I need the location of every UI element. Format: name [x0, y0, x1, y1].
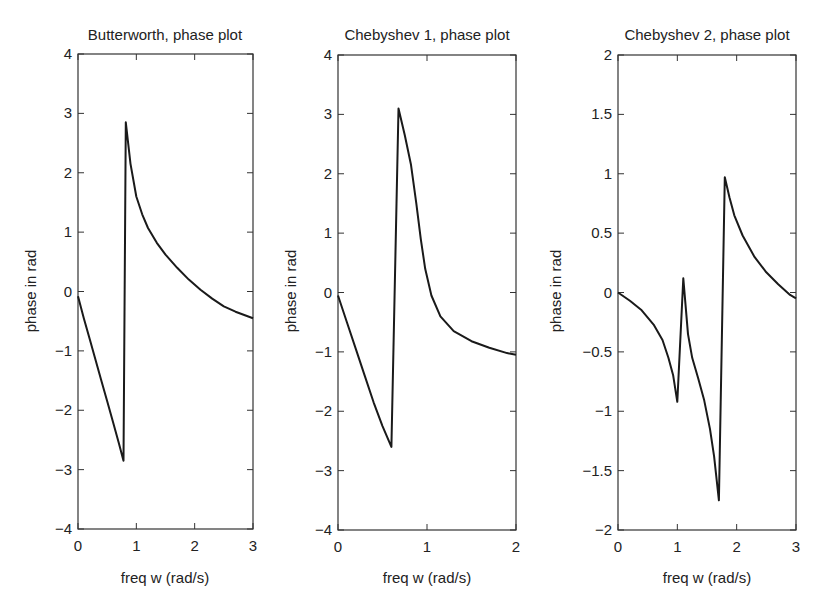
y-tick-label: 1	[604, 165, 612, 182]
y-tick-label: −4	[315, 521, 332, 538]
phase-curve	[618, 177, 796, 500]
axes-frame	[78, 54, 253, 529]
y-tick-label: 2	[64, 164, 72, 181]
y-tick-label: −3	[55, 461, 72, 478]
y-tick-label: 1.5	[591, 105, 612, 122]
y-tick-label: 0	[324, 284, 332, 301]
x-axis-label: freq w (rad/s)	[383, 569, 471, 586]
y-tick-label: −2	[595, 521, 612, 538]
panel-title: Chebyshev 2, phase plot	[624, 26, 790, 43]
y-tick-label: −0.5	[582, 343, 612, 360]
x-tick-label: 0	[614, 538, 622, 555]
y-tick-label: −2	[315, 402, 332, 419]
y-tick-label: 4	[64, 45, 72, 62]
x-tick-label: 3	[249, 537, 257, 554]
y-axis-label: phase in rad	[282, 250, 299, 333]
x-tick-label: 2	[732, 538, 740, 555]
y-tick-label: −3	[315, 462, 332, 479]
axes-frame	[618, 55, 796, 530]
phase-curve	[338, 108, 516, 447]
x-tick-label: 0	[334, 538, 342, 555]
x-tick-label: 2	[190, 537, 198, 554]
y-tick-label: −1	[595, 402, 612, 419]
panel-chebyshev-1: Chebyshev 1, phase plot freq w (rad/s) p…	[282, 26, 520, 586]
y-tick-label: 1	[64, 223, 72, 240]
y-tick-label: 3	[64, 104, 72, 121]
x-tick-label: 0	[74, 537, 82, 554]
y-tick-label: 1	[324, 224, 332, 241]
figure: Butterworth, phase plot freq w (rad/s) p…	[0, 0, 829, 610]
panel-chebyshev-2: Chebyshev 2, phase plot freq w (rad/s) p…	[547, 26, 800, 586]
panel-title: Butterworth, phase plot	[88, 26, 243, 43]
y-tick-label: 2	[324, 165, 332, 182]
plot-area: −4−3−2−101234012	[315, 46, 520, 555]
x-axis-label: freq w (rad/s)	[663, 569, 751, 586]
y-tick-label: 0	[64, 283, 72, 300]
x-tick-label: 1	[673, 538, 681, 555]
x-axis-label: freq w (rad/s)	[121, 569, 209, 586]
y-tick-label: −1	[55, 342, 72, 359]
panel-title: Chebyshev 1, phase plot	[344, 26, 510, 43]
y-tick-label: 0.5	[591, 224, 612, 241]
phase-curve	[78, 122, 253, 460]
x-tick-label: 2	[512, 538, 520, 555]
y-axis-label: phase in rad	[547, 250, 564, 333]
y-tick-label: −4	[55, 520, 72, 537]
y-tick-label: −2	[55, 401, 72, 418]
plot-area: −4−3−2−1012340123	[55, 45, 257, 554]
y-tick-label: −1.5	[582, 462, 612, 479]
y-tick-label: 0	[604, 284, 612, 301]
panel-butterworth: Butterworth, phase plot freq w (rad/s) p…	[22, 26, 257, 586]
axes-frame	[338, 55, 516, 530]
y-tick-label: 4	[324, 46, 332, 63]
x-tick-label: 1	[132, 537, 140, 554]
x-tick-label: 3	[792, 538, 800, 555]
y-axis-label: phase in rad	[22, 250, 39, 333]
y-tick-label: 2	[604, 46, 612, 63]
plot-area: −2−1.5−1−0.500.511.520123	[582, 46, 800, 555]
y-tick-label: 3	[324, 105, 332, 122]
y-tick-label: −1	[315, 343, 332, 360]
x-tick-label: 1	[423, 538, 431, 555]
